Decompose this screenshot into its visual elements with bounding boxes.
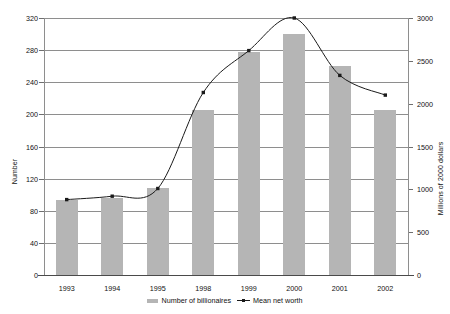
left-axis-line bbox=[44, 18, 45, 275]
left-axis-tick-label: 40 bbox=[12, 239, 38, 248]
x-axis-tick-label: 2001 bbox=[317, 284, 363, 293]
right-axis-tick-label: 3000 bbox=[417, 14, 447, 23]
left-axis-tick-label: 160 bbox=[12, 143, 38, 152]
right-axis-tick-label: 0 bbox=[417, 271, 447, 280]
legend-line-label: Mean net worth bbox=[253, 296, 303, 305]
right-axis-tick-label: 2000 bbox=[417, 100, 447, 109]
gridline bbox=[44, 243, 408, 244]
right-axis-tick-label: 1000 bbox=[417, 185, 447, 194]
gridline bbox=[44, 18, 408, 19]
gridline bbox=[44, 114, 408, 115]
gridline bbox=[44, 82, 408, 83]
bar bbox=[238, 52, 260, 275]
x-axis-tick-label: 1999 bbox=[226, 284, 272, 293]
bar bbox=[56, 200, 78, 275]
left-axis-tick-label: 80 bbox=[12, 207, 38, 216]
bar bbox=[147, 188, 169, 275]
legend-item-line: Mean net worth bbox=[237, 296, 303, 305]
x-axis-tick-label: 1998 bbox=[180, 284, 226, 293]
right-axis-tick-label: 1500 bbox=[417, 143, 447, 152]
legend-line-marker-icon bbox=[237, 298, 250, 303]
right-axis-title: Millions of 2000 dollars bbox=[437, 119, 444, 239]
bar bbox=[283, 34, 305, 275]
bar bbox=[374, 110, 396, 275]
line-marker bbox=[384, 93, 387, 96]
left-axis-tick-label: 200 bbox=[12, 110, 38, 119]
bar bbox=[192, 110, 214, 275]
left-axis-tick-label: 240 bbox=[12, 78, 38, 87]
line-marker bbox=[202, 91, 205, 94]
x-axis-tick-label: 1995 bbox=[135, 284, 181, 293]
x-axis-tick-label: 2000 bbox=[271, 284, 317, 293]
right-axis-tick-label: 500 bbox=[417, 228, 447, 237]
gridline bbox=[44, 211, 408, 212]
x-axis-tick-label: 1993 bbox=[44, 284, 90, 293]
right-axis-line bbox=[408, 18, 409, 275]
bar bbox=[329, 66, 351, 275]
gridline bbox=[44, 179, 408, 180]
left-axis-tick-label: 280 bbox=[12, 46, 38, 55]
legend-bar-swatch bbox=[147, 299, 158, 303]
gridline bbox=[44, 50, 408, 51]
left-axis-tick-label: 320 bbox=[12, 14, 38, 23]
chart-legend: Number of billionaires Mean net worth bbox=[0, 296, 450, 305]
chart-container: Number Millions of 2000 dollars 04080120… bbox=[0, 0, 450, 314]
left-axis-tick-label: 120 bbox=[12, 175, 38, 184]
gridline bbox=[44, 147, 408, 148]
legend-bar-label: Number of billionaires bbox=[161, 296, 231, 305]
bar bbox=[101, 198, 123, 275]
x-axis-tick-label: 2002 bbox=[362, 284, 408, 293]
legend-item-bar: Number of billionaires bbox=[147, 296, 231, 305]
right-axis-tick-label: 2500 bbox=[417, 57, 447, 66]
x-axis-line bbox=[38, 275, 414, 276]
left-axis-tick-label: 0 bbox=[12, 271, 38, 280]
x-axis-tick-label: 1994 bbox=[89, 284, 135, 293]
